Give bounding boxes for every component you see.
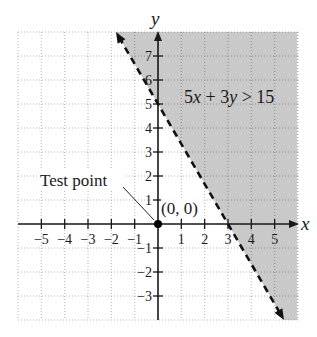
y-tick-label: 1 xyxy=(145,193,152,208)
x-tick-label: −3 xyxy=(81,232,96,247)
x-tick-label: 4 xyxy=(248,232,255,247)
y-tick-label: 5 xyxy=(145,97,152,112)
inequality-label: 5x + 3y > 15 xyxy=(184,87,274,107)
x-tick-label: 5 xyxy=(271,232,278,247)
x-tick-label: 3 xyxy=(224,232,231,247)
y-tick-label: −3 xyxy=(137,289,152,304)
y-axis-label: y xyxy=(149,8,160,29)
x-axis-label: x xyxy=(300,213,310,234)
y-tick-label: 7 xyxy=(145,49,152,64)
x-tick-label: −4 xyxy=(57,232,72,247)
y-tick-label: 2 xyxy=(145,169,152,184)
y-tick-label: 3 xyxy=(145,145,152,160)
y-tick-label: 6 xyxy=(145,73,152,88)
test-point-dot xyxy=(154,220,162,228)
x-tick-label: −5 xyxy=(34,232,49,247)
origin-label: (0, 0) xyxy=(161,199,198,218)
y-tick-label: −2 xyxy=(137,265,152,280)
test-point-label: Test point xyxy=(40,171,108,190)
y-tick-label: 4 xyxy=(145,121,152,136)
x-tick-label: 1 xyxy=(178,232,185,247)
y-tick-label: −1 xyxy=(137,241,152,256)
x-tick-label: 2 xyxy=(201,232,208,247)
inequality-graph: −5−4−3−2−112345−3−2−11234567 5x + 3y > 1… xyxy=(0,0,317,337)
x-tick-label: −2 xyxy=(104,232,119,247)
